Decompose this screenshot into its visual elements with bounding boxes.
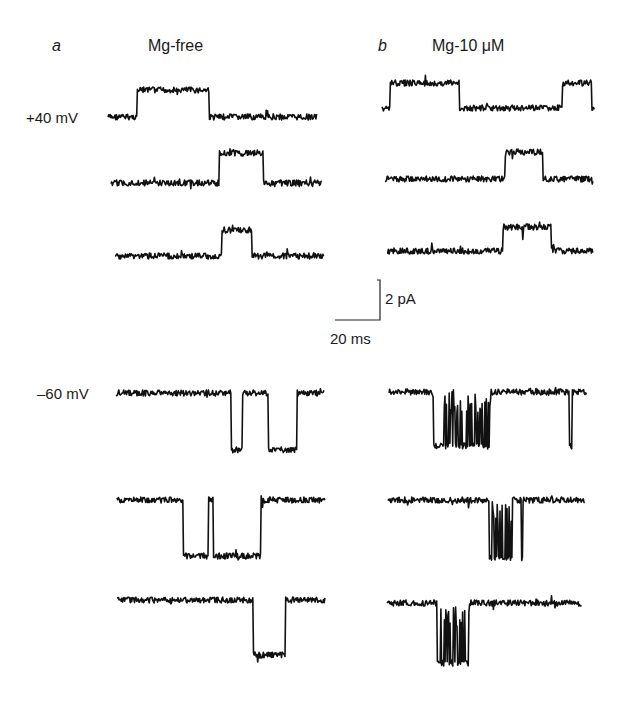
scale-bar	[335, 280, 380, 320]
current-traces-plot	[0, 0, 618, 701]
trace-a-row-4	[116, 389, 324, 453]
trace-b-row-5	[388, 496, 585, 561]
trace-b-row-1	[382, 75, 595, 111]
trace-a-row-3	[115, 225, 324, 259]
trace-a-row-5	[117, 496, 325, 560]
trace-group	[108, 75, 595, 666]
trace-a-row-2	[111, 149, 322, 189]
trace-b-row-3	[387, 222, 593, 254]
trace-a-row-6	[117, 597, 325, 662]
trace-b-row-2	[385, 149, 593, 184]
trace-b-row-4	[389, 388, 586, 449]
trace-b-row-6	[387, 596, 582, 666]
trace-a-row-1	[108, 87, 317, 120]
